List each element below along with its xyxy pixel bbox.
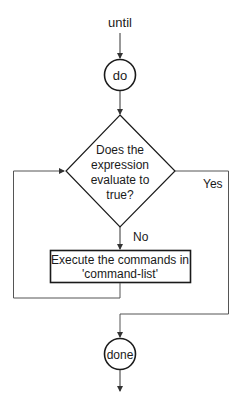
decision-line-4: true? [106,188,134,202]
start-node: do [105,60,136,91]
entry-label: until [108,15,132,30]
start-node-label: do [113,68,127,83]
process-node: Execute the commands in 'command-list' [51,251,191,283]
process-line-1: Execute the commands in [51,253,189,267]
decision-line-3: evaluate to [91,173,150,187]
no-label: No [133,230,149,244]
process-line-2: 'command-list' [82,267,158,281]
decision-line-2: expression [91,158,149,172]
end-node: done [105,339,136,370]
end-node-label: done [107,348,134,362]
decision-line-1: Does the [96,143,144,157]
yes-label: Yes [203,177,223,191]
decision-node: Does the expression evaluate to true? [66,115,175,227]
flowchart: until do Does the expression evaluate to… [0,0,245,401]
